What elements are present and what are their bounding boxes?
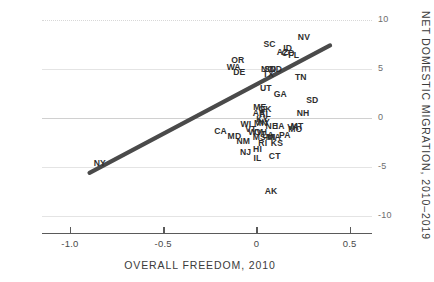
x-axis-line — [42, 233, 372, 234]
x-axis-tick — [163, 227, 164, 234]
data-point-tn-13: TN — [295, 73, 307, 82]
gridline-0 — [42, 118, 372, 119]
data-point-de-8: DE — [233, 68, 245, 77]
data-point-ct-47: CT — [269, 152, 281, 161]
xtick-label-3: 0.5 — [343, 238, 357, 249]
data-point-ga-15: GA — [274, 90, 287, 99]
data-point-nm-41: NM — [237, 136, 251, 145]
x-axis-title: OVERALL FREEDOM, 2010 — [0, 259, 400, 271]
ytick-label-minus-5: -5 — [378, 161, 386, 171]
data-point-il-46: IL — [254, 154, 262, 163]
x-axis-tick — [256, 227, 257, 234]
xtick-label-1: -0.5 — [155, 238, 172, 249]
gridline-minus-10 — [42, 216, 372, 217]
ytick-label-0: 0 — [378, 112, 383, 122]
data-point-ks-43: KS — [271, 139, 283, 148]
x-axis-tick — [70, 227, 71, 234]
xtick-label-2: 0 — [254, 238, 259, 249]
x-axis-tick — [350, 227, 351, 234]
gridline-5 — [42, 69, 372, 70]
data-point-nh-21: NH — [297, 109, 310, 118]
data-point-fl-5: FL — [288, 51, 299, 60]
data-point-tx-12: TX — [263, 70, 274, 79]
xtick-label-0: -1.0 — [61, 238, 78, 249]
gridline-10 — [42, 20, 372, 21]
scatter-chart: 10 5 0 -5 -10 NVSCIDAZCOFLORWADENCSDNDTX… — [0, 0, 434, 282]
data-point-sc-1: SC — [263, 39, 275, 48]
data-point-ut-14: UT — [260, 83, 272, 92]
ytick-label-minus-10: -10 — [378, 210, 392, 220]
data-point-nv-0: NV — [298, 32, 310, 41]
plot-area: 10 5 0 -5 -10 NVSCIDAZCOFLORWADENCSDNDTX… — [0, 0, 434, 282]
data-point-ca-34: CA — [214, 126, 227, 135]
ytick-label-10: 10 — [378, 14, 388, 24]
gridline-minus-5 — [42, 167, 372, 168]
data-point-ak-49: AK — [265, 186, 278, 195]
ytick-label-5: 5 — [378, 63, 383, 73]
data-point-ny-48: NY — [94, 159, 106, 168]
y-axis-title: NET DOMESTIC MIGRATION, 2010–2019 — [420, 0, 432, 250]
data-point-sd-16: SD — [306, 96, 318, 105]
data-point-nj-44: NJ — [240, 148, 251, 157]
